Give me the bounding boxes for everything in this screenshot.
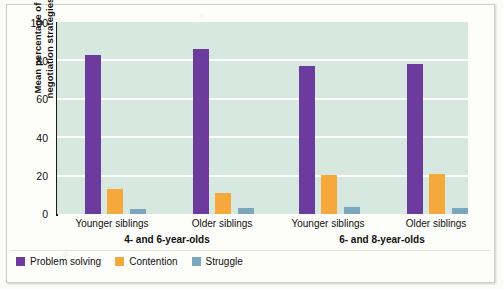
legend: Problem solvingContentionStruggle bbox=[16, 256, 243, 267]
bar-contention-group2 bbox=[321, 175, 337, 214]
bar-problem-solving-group0 bbox=[85, 55, 101, 214]
bar-contention-group3 bbox=[429, 174, 445, 214]
x-category-label-1: Older siblings bbox=[167, 218, 277, 229]
legend-label: Contention bbox=[129, 256, 177, 267]
plot-region bbox=[57, 22, 468, 214]
gridline-80 bbox=[57, 59, 468, 61]
y-tick-label-0: 0 bbox=[14, 208, 48, 220]
x-group-label-0: 4- and 6-year-olds bbox=[57, 234, 277, 245]
y-tick-label-60: 60 bbox=[14, 93, 48, 105]
legend-swatch-icon bbox=[115, 257, 124, 266]
legend-item-problem-solving[interactable]: Problem solving bbox=[16, 256, 101, 267]
bar-contention-group1 bbox=[215, 193, 231, 214]
legend-label: Problem solving bbox=[30, 256, 101, 267]
legend-swatch-icon bbox=[16, 257, 25, 266]
x-category-label-0: Younger siblings bbox=[57, 218, 167, 229]
legend-label: Struggle bbox=[206, 256, 243, 267]
bar-struggle-group1 bbox=[238, 208, 254, 214]
bar-problem-solving-group2 bbox=[299, 66, 315, 214]
bar-contention-group0 bbox=[107, 189, 123, 214]
x-group-label-1: 6- and 8-year-olds bbox=[273, 234, 491, 245]
bar-struggle-group3 bbox=[452, 208, 468, 214]
y-tick-label-40: 40 bbox=[14, 132, 48, 144]
figure-container: Mean percentage of negotiation strategie… bbox=[0, 0, 503, 289]
bar-problem-solving-group1 bbox=[193, 49, 209, 214]
y-tick-label-100: 100 bbox=[14, 17, 48, 29]
y-tick-label-20: 20 bbox=[14, 170, 48, 182]
legend-divider bbox=[10, 250, 491, 251]
x-category-label-2: Younger siblings bbox=[273, 218, 383, 229]
legend-swatch-icon bbox=[192, 257, 201, 266]
bar-struggle-group0 bbox=[130, 209, 146, 214]
legend-item-struggle[interactable]: Struggle bbox=[192, 256, 243, 267]
x-category-label-3: Older siblings bbox=[381, 218, 491, 229]
bar-struggle-group2 bbox=[344, 207, 360, 214]
bar-problem-solving-group3 bbox=[407, 64, 423, 214]
legend-item-contention[interactable]: Contention bbox=[115, 256, 177, 267]
y-tick-label-80: 80 bbox=[14, 55, 48, 67]
